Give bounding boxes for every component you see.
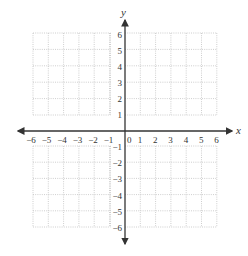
x-axis-label: x xyxy=(235,124,241,136)
y-tick-labels-positive: 654321 xyxy=(118,30,123,120)
x-tick-label: −2 xyxy=(88,135,98,145)
coordinate-plane: x y 0 −6−5−4−3−2−1 123456 654321 −1−2−3−… xyxy=(0,0,248,256)
x-tick-labels-positive: 123456 xyxy=(138,135,220,145)
x-tick-label: 3 xyxy=(168,135,173,145)
y-tick-label: −1 xyxy=(112,142,122,152)
y-tick-labels-negative: −1−2−3−4−5−6 xyxy=(112,142,122,233)
x-tick-label: 5 xyxy=(199,135,204,145)
y-tick-label: −3 xyxy=(112,174,122,184)
y-tick-label: 1 xyxy=(118,110,123,120)
x-tick-label: 6 xyxy=(214,135,219,145)
y-tick-label: −5 xyxy=(112,207,122,217)
x-tick-label: 4 xyxy=(184,135,189,145)
y-tick-label: −2 xyxy=(112,158,122,168)
y-axis-label: y xyxy=(120,6,126,18)
y-tick-label: −4 xyxy=(112,191,122,201)
y-tick-label: 4 xyxy=(118,62,123,72)
y-tick-label: 2 xyxy=(118,94,123,104)
x-tick-label: 1 xyxy=(138,135,143,145)
y-tick-label: 6 xyxy=(118,30,123,40)
x-tick-label: −6 xyxy=(26,135,36,145)
y-tick-label: 5 xyxy=(118,46,123,56)
x-tick-label: 2 xyxy=(153,135,158,145)
y-tick-label: −6 xyxy=(112,223,122,233)
x-tick-label: −5 xyxy=(42,135,52,145)
x-tick-labels-negative: −6−5−4−3−2−1 xyxy=(26,135,113,145)
x-tick-label: −3 xyxy=(73,135,83,145)
x-tick-label: −4 xyxy=(57,135,67,145)
origin-label: 0 xyxy=(127,135,132,145)
y-tick-label: 3 xyxy=(118,78,123,88)
